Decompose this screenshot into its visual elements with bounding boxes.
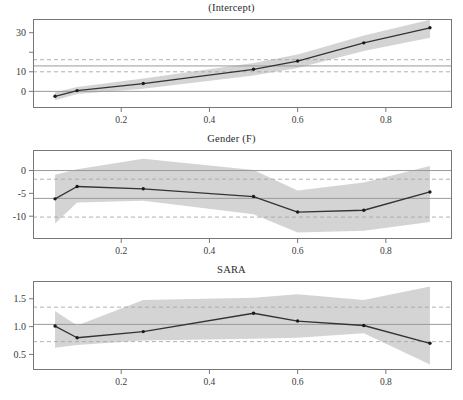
data-point	[75, 89, 78, 92]
y-axis-tick-label: 0	[21, 165, 26, 176]
x-axis-tick-label: 0.6	[292, 246, 304, 256]
plot-area: 0.51.01.50.20.40.60.8	[0, 262, 463, 400]
data-point	[428, 342, 431, 345]
data-point	[142, 82, 145, 85]
data-point	[428, 26, 431, 29]
y-axis-tick-label: -5	[18, 188, 26, 199]
x-axis-tick-label: 0.2	[115, 115, 127, 125]
y-axis-tick-label: 0	[21, 86, 26, 97]
x-axis-tick-label: 0.4	[203, 246, 215, 256]
data-point	[362, 324, 365, 327]
y-axis-tick-label: 10	[16, 66, 26, 77]
data-point	[252, 312, 255, 315]
data-point	[296, 319, 299, 322]
x-axis-tick-label: 0.6	[292, 115, 304, 125]
y-axis-tick-label: 30	[16, 27, 26, 38]
x-axis-tick-label: 0.8	[380, 377, 392, 387]
data-point	[53, 95, 56, 98]
x-axis-tick-label: 0.4	[203, 115, 215, 125]
data-point	[296, 210, 299, 213]
x-axis-tick-label: 0.8	[380, 115, 392, 125]
quantile-regression-figure: (Intercept) 010300.20.40.60.8 Gender (F)…	[0, 0, 463, 400]
y-axis-tick-label: 1.5	[14, 293, 27, 304]
data-point	[362, 209, 365, 212]
data-point	[428, 190, 431, 193]
panel-intercept: (Intercept) 010300.20.40.60.8	[0, 0, 463, 132]
plot-area: 010300.20.40.60.8	[0, 0, 463, 132]
data-point	[53, 197, 56, 200]
y-axis-tick-label: -10	[13, 211, 26, 222]
data-point	[252, 195, 255, 198]
panel-sara: SARA 0.51.01.50.20.40.60.8	[0, 262, 463, 400]
x-axis-tick-label: 0.6	[292, 377, 304, 387]
x-axis-tick-label: 0.8	[380, 246, 392, 256]
data-point	[142, 187, 145, 190]
data-point	[75, 336, 78, 339]
data-point	[362, 41, 365, 44]
data-point	[53, 324, 56, 327]
data-point	[75, 185, 78, 188]
panel-gender-f: Gender (F) 0-5-100.20.40.60.8	[0, 131, 463, 263]
data-point	[142, 330, 145, 333]
y-axis-tick-label: 1.0	[14, 321, 27, 332]
x-axis-tick-label: 0.2	[115, 246, 127, 256]
x-axis-tick-label: 0.4	[203, 377, 215, 387]
x-axis-tick-label: 0.2	[115, 377, 127, 387]
data-point	[296, 59, 299, 62]
data-point	[252, 68, 255, 71]
confidence-band	[55, 287, 430, 365]
y-axis-tick-label: 0.5	[14, 349, 27, 360]
plot-area: 0-5-100.20.40.60.8	[0, 131, 463, 263]
